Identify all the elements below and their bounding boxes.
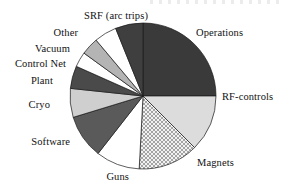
pie-chart-figure: OperationsRF-controlsMagnetsGunsSoftware… [0,0,288,193]
pie-label-guns: Guns [0,171,129,182]
pie-label-software: Software [0,136,70,147]
pie-label-vacuum: Vacuum [0,43,70,54]
pie-label-control-net: Control Net [0,58,66,69]
pie-label-rf-controls: RF-controls [222,91,273,102]
pie-label-cryo: Cryo [0,99,50,110]
pie-label-other: Other [0,27,78,38]
pie-label-magnets: Magnets [197,157,234,168]
pie-label-plant: Plant [0,75,53,86]
pie-slices-group [70,23,216,169]
pie-label-operations: Operations [196,27,243,38]
pie-label-srf-arc-trips: SRF (arc trips) [0,10,148,21]
